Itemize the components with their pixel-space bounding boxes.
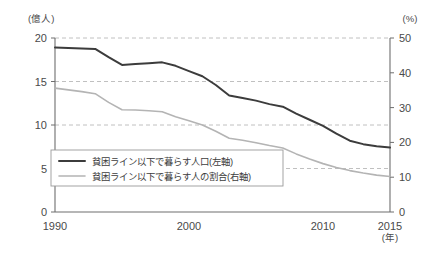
right-axis-tick-labels: 01020304050 [399,32,411,218]
left-axis-tick-labels: 05101520 [35,32,47,218]
x-axis-unit-label: (年) [382,232,398,243]
left-axis-unit-label: (億人) [28,13,54,24]
left-tick-label-0: 0 [41,206,47,218]
right-tick-label-40: 40 [399,67,411,79]
legend: 貧困ライン以下で暮らす人口(左軸) 貧困ライン以下で暮らす人の割合(右軸) [51,150,283,186]
right-tick-label-30: 30 [399,102,411,114]
left-tick-label-10: 10 [35,119,47,131]
x-tick-label-2015: 2015 [378,220,402,232]
x-axis-tick-labels: 1990200020102015 [43,220,402,232]
right-tick-label-0: 0 [399,206,405,218]
x-tick-label-2000: 2000 [177,220,201,232]
right-axis-unit-label: (%) [403,13,418,24]
left-tick-label-5: 5 [41,163,47,175]
poverty-line-chart-figure: 05101520 01020304050 1990200020102015 (億… [0,0,433,255]
x-tick-label-2010: 2010 [311,220,335,232]
left-tick-label-15: 15 [35,76,47,88]
right-tick-label-20: 20 [399,136,411,148]
chart-canvas: 05101520 01020304050 1990200020102015 (億… [0,0,433,255]
right-tick-label-50: 50 [399,32,411,44]
legend-label-population: 貧困ライン以下で暮らす人口(左軸) [92,156,233,167]
right-axis-ticks [390,38,394,212]
x-tick-label-1990: 1990 [43,220,67,232]
left-tick-label-20: 20 [35,32,47,44]
legend-label-rate: 貧困ライン以下で暮らす人の割合(右軸) [92,171,251,182]
right-tick-label-10: 10 [399,171,411,183]
